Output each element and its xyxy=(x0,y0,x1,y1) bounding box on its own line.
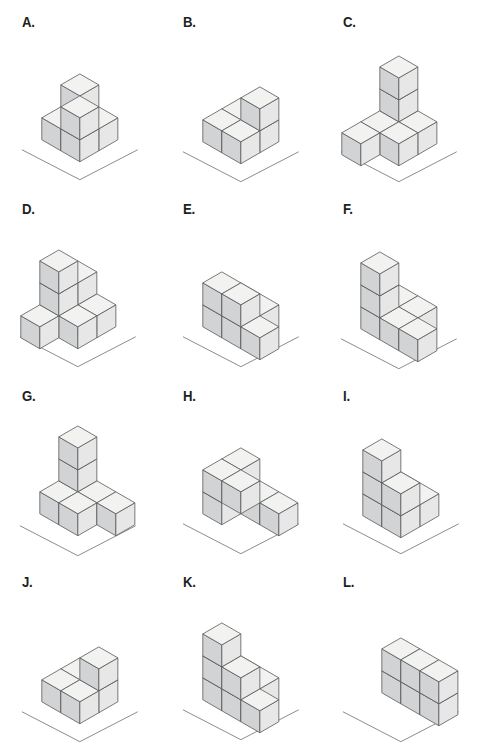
figure-c-drawing xyxy=(321,0,482,187)
figure-h-drawing xyxy=(161,374,322,561)
figure-d: D. xyxy=(0,187,161,374)
cube-stack xyxy=(363,438,439,537)
figure-i: I. xyxy=(321,374,482,561)
cube-stack xyxy=(382,638,458,726)
figure-d-drawing xyxy=(0,187,161,374)
cube-stack xyxy=(342,56,437,166)
figure-a-drawing xyxy=(0,0,161,187)
cube-stack xyxy=(42,74,118,162)
figure-f: F. xyxy=(321,187,482,374)
figure-l: L. xyxy=(321,560,482,747)
figure-b: B. xyxy=(161,0,322,187)
cube-stack xyxy=(202,623,278,733)
figure-c: C. xyxy=(321,0,482,187)
figure-k-drawing xyxy=(161,560,322,747)
figure-k: K. xyxy=(161,560,322,747)
figure-b-drawing xyxy=(161,0,322,187)
cube-stack xyxy=(42,647,118,724)
figure-h: H. xyxy=(161,374,322,561)
cube-stack xyxy=(202,272,278,360)
figure-l-drawing xyxy=(321,560,482,747)
figure-j-drawing xyxy=(0,560,161,747)
figure-j: J. xyxy=(0,560,161,747)
figure-a: A. xyxy=(0,0,161,187)
cube-stack xyxy=(361,252,437,362)
cube-stack xyxy=(202,447,297,535)
figure-e-drawing xyxy=(161,187,322,374)
figure-g: G. xyxy=(0,374,161,561)
figure-f-drawing xyxy=(321,187,482,374)
cube-stack xyxy=(40,425,135,535)
cube-stack xyxy=(202,87,278,164)
figure-e: E. xyxy=(161,187,322,374)
figure-grid: A.B.C.D.E.F.G.H.I.J.K.L. xyxy=(0,0,482,747)
figure-g-drawing xyxy=(0,374,161,561)
cube-stack xyxy=(21,250,116,349)
worksheet-sheet: A.B.C.D.E.F.G.H.I.J.K.L. xyxy=(0,0,482,747)
figure-i-drawing xyxy=(321,374,482,561)
